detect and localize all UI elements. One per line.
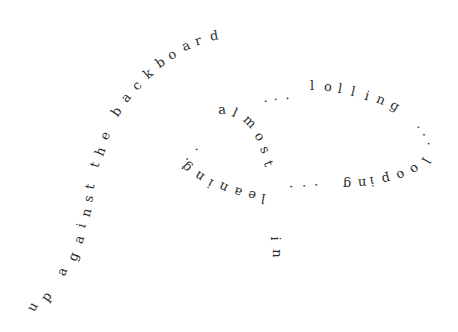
spiral-glyph: o — [408, 162, 422, 177]
spiral-glyph: k — [141, 66, 155, 81]
spiral-glyph: n — [271, 249, 284, 257]
spiral-glyph: g — [388, 98, 401, 113]
spiral-glyph: a — [118, 90, 133, 104]
spiral-glyph: . — [262, 91, 268, 105]
spiral-glyph: a — [217, 103, 226, 117]
spiral-glyph: i — [269, 236, 282, 240]
spiral-poem-canvas: upagainstthebackboard...almost...lolling… — [0, 0, 458, 332]
spiral-glyph: l — [230, 106, 239, 120]
spiral-glyph: a — [180, 38, 192, 53]
spiral-glyph: c — [129, 78, 143, 92]
spiral-glyph: i — [205, 177, 215, 190]
spiral-glyph: t — [262, 159, 276, 168]
spiral-glyph: s — [258, 144, 273, 156]
spiral-glyph: g — [179, 160, 194, 175]
spiral-glyph: . — [425, 138, 439, 146]
spiral-glyph: e — [97, 129, 112, 142]
spiral-glyph: l — [337, 82, 343, 96]
spiral-glyph: p — [380, 172, 391, 187]
spiral-glyph: o — [395, 168, 408, 183]
spiral-glyph: a — [54, 265, 69, 277]
spiral-glyph: t — [83, 183, 97, 191]
spiral-glyph: a — [72, 234, 87, 245]
spiral-glyph: g — [343, 178, 351, 191]
spiral-glyph: l — [349, 85, 356, 99]
spiral-glyph: b — [153, 55, 167, 70]
spiral-glyph: n — [217, 180, 230, 195]
spiral-glyph: o — [252, 130, 267, 144]
spiral-glyph: d — [209, 28, 219, 42]
spiral-glyph: i — [363, 89, 371, 103]
spiral-glyph: o — [324, 80, 333, 94]
spiral-glyph: m — [241, 113, 259, 131]
spiral-glyph: n — [357, 177, 366, 191]
spiral-glyph: l — [310, 79, 314, 92]
spiral-glyph: i — [369, 175, 375, 189]
spiral-glyph: t — [88, 160, 102, 169]
spiral-glyph: l — [419, 155, 432, 165]
spiral-glyph: . — [415, 118, 427, 130]
spiral-glyph: n — [375, 92, 388, 107]
spiral-glyph: o — [165, 47, 178, 62]
spiral-glyph: h — [93, 145, 108, 158]
spiral-glyph: g — [66, 250, 81, 262]
spiral-glyph: . — [289, 184, 294, 197]
spiral-glyph: a — [232, 185, 244, 200]
spiral-glyph: p — [38, 289, 53, 303]
spiral-glyph: . — [421, 127, 434, 138]
spiral-glyph: . — [284, 88, 289, 101]
spiral-glyph: . — [188, 140, 200, 153]
spiral-glyph: i — [74, 222, 88, 230]
spiral-glyph: . — [272, 89, 278, 102]
spiral-glyph: . — [314, 182, 318, 195]
spiral-glyph: b — [108, 104, 123, 118]
spiral-glyph: l — [260, 192, 266, 206]
spiral-glyph: . — [302, 183, 306, 196]
spiral-glyph: n — [192, 169, 206, 184]
spiral-glyph: n — [79, 207, 94, 218]
spiral-glyph: u — [24, 300, 39, 314]
spiral-glyph: s — [81, 194, 95, 203]
spiral-glyph: r — [193, 33, 203, 47]
spiral-glyph: e — [246, 188, 257, 203]
